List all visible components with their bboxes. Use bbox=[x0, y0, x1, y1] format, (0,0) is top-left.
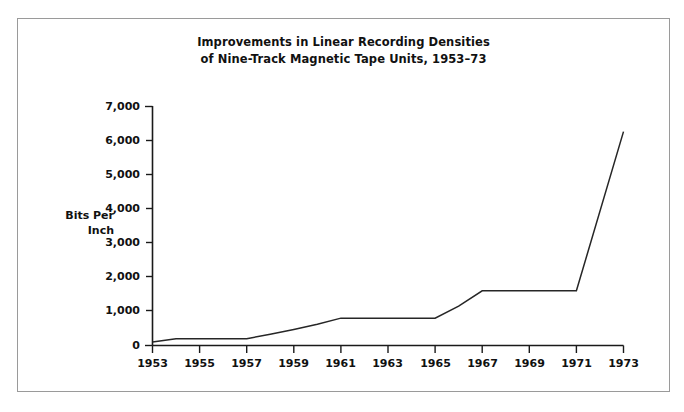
x-tick-label: 1961 bbox=[315, 357, 366, 370]
x-tick-label: 1953 bbox=[127, 357, 178, 370]
x-tick-label: 1963 bbox=[362, 357, 413, 370]
x-tick-label: 1967 bbox=[457, 357, 508, 370]
y-tick-label: 1,000 bbox=[74, 304, 140, 317]
y-tick-label: 5,000 bbox=[74, 168, 140, 181]
x-tick-label: 1969 bbox=[504, 357, 555, 370]
x-tick-label: 1959 bbox=[268, 357, 319, 370]
y-axis bbox=[145, 106, 153, 346]
x-tick-label: 1965 bbox=[410, 357, 461, 370]
x-tick-label: 1971 bbox=[551, 357, 602, 370]
y-tick-label: 3,000 bbox=[74, 236, 140, 249]
y-tick-label: 0 bbox=[74, 339, 140, 352]
x-axis bbox=[153, 346, 624, 354]
y-tick-label: 7,000 bbox=[74, 100, 140, 113]
x-tick-label: 1957 bbox=[221, 357, 272, 370]
x-tick-label: 1955 bbox=[174, 357, 225, 370]
y-tick-label: 6,000 bbox=[74, 134, 140, 147]
y-tick-label: 4,000 bbox=[74, 202, 140, 215]
data-series-line bbox=[153, 132, 624, 342]
x-tick-label: 1973 bbox=[598, 357, 649, 370]
chart-figure: Improvements in Linear Recording Densiti… bbox=[0, 0, 684, 412]
y-tick-label: 2,000 bbox=[74, 270, 140, 283]
